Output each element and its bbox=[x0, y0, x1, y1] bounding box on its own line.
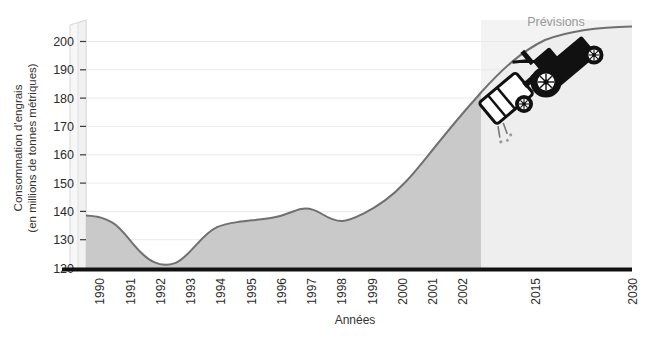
forecast-label: Prévisions bbox=[527, 15, 585, 29]
x-tick-label-1999: 1999 bbox=[366, 278, 380, 305]
x-tick-label-1993: 1993 bbox=[184, 278, 198, 305]
y-axis-title-line1: Consommation d'engrais bbox=[12, 84, 24, 211]
y-tick-label-200: 200 bbox=[53, 35, 74, 49]
tractor-rear-wheel bbox=[531, 67, 562, 98]
x-axis-title: Années bbox=[335, 313, 376, 327]
tractor-front-wheel bbox=[585, 46, 604, 65]
x-tick-label-2015: 2015 bbox=[529, 278, 543, 305]
y-tick-label-170: 170 bbox=[53, 120, 74, 134]
x-tick-label-2030: 2030 bbox=[626, 278, 640, 305]
y-tick-label-190: 190 bbox=[53, 63, 74, 77]
axis-depth-wall bbox=[70, 20, 86, 268]
x-tick-label-1994: 1994 bbox=[214, 278, 228, 305]
y-axis-title: Consommation d'engrais (en millions de t… bbox=[12, 63, 38, 233]
y-axis-title-line2: (en millions de tonnes métriques) bbox=[26, 63, 38, 233]
y-tick-label-180: 180 bbox=[53, 92, 74, 106]
x-tick-label-1996: 1996 bbox=[275, 278, 289, 305]
y-tick-label-150: 150 bbox=[53, 177, 74, 191]
x-tick-label-2001: 2001 bbox=[426, 278, 440, 305]
x-tick-label-1991: 1991 bbox=[124, 278, 138, 305]
y-tick-label-130: 130 bbox=[53, 233, 74, 247]
x-tick-label-2002: 2002 bbox=[456, 278, 470, 305]
fertilizer-consumption-chart: 200 190 180 170 160 150 140 130 120 Cons… bbox=[0, 0, 664, 340]
trailer-wheel bbox=[515, 95, 533, 113]
x-tick-label-2000: 2000 bbox=[396, 278, 410, 305]
y-tick-label-160: 160 bbox=[53, 148, 74, 162]
x-tick-label-1990: 1990 bbox=[93, 278, 107, 305]
x-tick-label-1998: 1998 bbox=[335, 278, 349, 305]
x-tick-label-1995: 1995 bbox=[245, 278, 259, 305]
x-tick-label-1997: 1997 bbox=[305, 278, 319, 305]
x-tick-label-1992: 1992 bbox=[154, 278, 168, 305]
y-tick-label-140: 140 bbox=[53, 205, 74, 219]
